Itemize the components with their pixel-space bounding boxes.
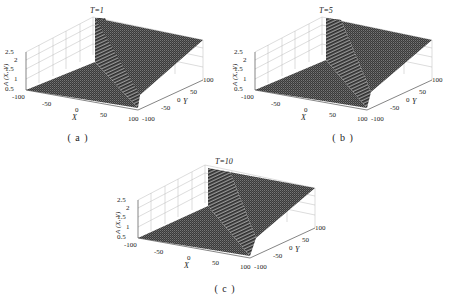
- svg-text:50: 50: [100, 111, 108, 119]
- caption-a: ( a ): [58, 132, 98, 143]
- svg-text:50: 50: [302, 236, 310, 244]
- svg-text:2.5: 2.5: [117, 196, 126, 204]
- y-axis-label: Y: [295, 245, 301, 254]
- y-axis-label: Y: [183, 97, 189, 106]
- svg-text:-100: -100: [254, 263, 267, 271]
- plot-title: T=1: [90, 6, 104, 15]
- svg-text:-50: -50: [42, 100, 52, 108]
- svg-text:50: 50: [190, 88, 198, 96]
- svg-text:-100: -100: [124, 241, 137, 249]
- z-axis-label: A (X, Y): [114, 211, 122, 235]
- svg-text:1: 1: [243, 75, 247, 83]
- surface-plot-b: 2.521.5 10.5 A (X, Y) -100-500 50100 X -…: [229, 0, 454, 149]
- svg-text:1: 1: [126, 223, 130, 231]
- svg-text:100: 100: [357, 115, 368, 123]
- svg-text:-50: -50: [154, 248, 164, 256]
- surface-plot-c: 2.521.5 10.5 A (X, Y) -100-500 50100 X -…: [112, 148, 339, 298]
- svg-text:50: 50: [419, 88, 427, 96]
- svg-text:100: 100: [128, 115, 139, 123]
- svg-text:-50: -50: [271, 100, 281, 108]
- panel-a: 2.521.5 10.5 A (X, Y) -100-500 50100 X -…: [0, 0, 227, 149]
- y-axis-label: Y: [412, 97, 418, 106]
- svg-text:2.5: 2.5: [5, 48, 14, 56]
- svg-text:1: 1: [14, 75, 18, 83]
- panel-c: 2.521.5 10.5 A (X, Y) -100-500 50100 X -…: [112, 148, 339, 298]
- svg-text:-50: -50: [161, 104, 171, 112]
- svg-text:2.5: 2.5: [234, 48, 243, 56]
- z-axis-label: A (X, Y): [2, 63, 10, 87]
- svg-text:2: 2: [243, 56, 247, 64]
- svg-text:-50: -50: [390, 104, 400, 112]
- svg-text:-50: -50: [273, 252, 283, 260]
- svg-text:50: 50: [329, 111, 337, 119]
- svg-text:-100: -100: [142, 115, 155, 123]
- caption-c: ( c ): [205, 283, 245, 294]
- svg-text:100: 100: [432, 76, 443, 84]
- svg-text:0: 0: [177, 96, 181, 104]
- y-ticks: -100-500 50100: [371, 76, 443, 123]
- svg-text:50: 50: [212, 259, 220, 267]
- svg-text:2: 2: [14, 56, 18, 64]
- caption-b: ( b ): [323, 132, 363, 143]
- z-axis-label: A (X, Y): [231, 63, 239, 87]
- surface-plot-a: 2.521.5 10.5 A (X, Y) -100-500 50100 X -…: [0, 0, 227, 149]
- panel-b: 2.521.5 10.5 A (X, Y) -100-500 50100 X -…: [229, 0, 454, 149]
- svg-text:100: 100: [315, 224, 326, 232]
- svg-text:100: 100: [203, 76, 214, 84]
- plot-title: T=5: [319, 6, 333, 15]
- x-axis-label: X: [71, 113, 78, 122]
- x-axis-label: X: [183, 261, 190, 270]
- svg-text:0: 0: [289, 244, 293, 252]
- svg-text:-100: -100: [241, 93, 254, 101]
- svg-text:2: 2: [126, 204, 130, 212]
- svg-text:-100: -100: [12, 93, 25, 101]
- svg-text:100: 100: [240, 263, 251, 271]
- plot-title: T=10: [215, 157, 233, 166]
- svg-text:0: 0: [406, 96, 410, 104]
- svg-text:-100: -100: [371, 115, 384, 123]
- x-axis-label: X: [300, 113, 307, 122]
- y-ticks: -100-500 50100: [254, 224, 326, 271]
